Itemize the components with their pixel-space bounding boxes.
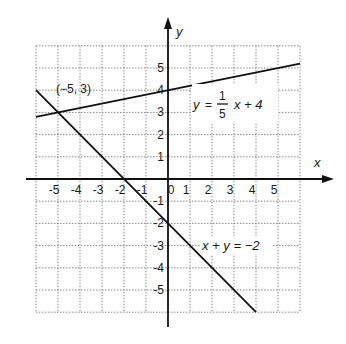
svg-text:-4: -4 [153,261,164,275]
line2-label: x + y = −2 [201,238,260,253]
coordinate-plane: -5-4-3-2-101234554321-1-2-3-4-5 y = 1 5 … [0,0,346,344]
svg-text:-2: -2 [115,183,126,197]
svg-text:-4: -4 [71,183,82,197]
line1-label-num: 1 [219,89,226,103]
svg-text:5: 5 [157,61,164,75]
svg-text:2: 2 [157,128,164,142]
y-axis-label: y [175,24,184,39]
axes [26,17,334,327]
svg-text:-1: -1 [137,183,148,197]
line1-label-den: 5 [219,107,226,121]
svg-text:1: 1 [183,183,190,197]
svg-text:3: 3 [157,105,164,119]
svg-text:4: 4 [249,183,256,197]
line1-label-eq: = [205,98,212,112]
point-label: (−5, 3) [56,82,91,96]
svg-text:0: 0 [168,183,175,197]
svg-text:4: 4 [157,83,164,97]
svg-text:2: 2 [205,183,212,197]
svg-text:5: 5 [271,183,278,197]
line1-label-rest: x + 4 [233,97,263,112]
svg-text:-1: -1 [153,194,164,208]
svg-text:-5: -5 [153,283,164,297]
svg-text:-5: -5 [49,183,60,197]
svg-text:1: 1 [157,150,164,164]
svg-text:-3: -3 [153,239,164,253]
x-axis-label: x [313,155,321,170]
svg-text:3: 3 [227,183,234,197]
svg-text:-3: -3 [93,183,104,197]
